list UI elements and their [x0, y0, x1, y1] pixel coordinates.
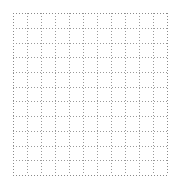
chart-figure	[0, 0, 179, 185]
y-gridline	[13, 131, 167, 132]
y-gridline	[13, 116, 167, 117]
y-gridline	[13, 175, 167, 176]
x-gridline	[27, 13, 28, 175]
y-gridline	[13, 101, 167, 102]
x-gridline	[97, 13, 98, 175]
x-gridline	[139, 13, 140, 175]
x-gridline	[125, 13, 126, 175]
x-gridline	[167, 13, 168, 175]
x-gridline	[83, 13, 84, 175]
x-gridline	[13, 13, 14, 175]
x-gridline	[111, 13, 112, 175]
y-gridline	[13, 160, 167, 161]
y-gridline	[13, 87, 167, 88]
y-gridline	[13, 28, 167, 29]
x-gridline	[55, 13, 56, 175]
x-gridline	[69, 13, 70, 175]
x-gridlines-group	[13, 13, 167, 175]
y-gridline	[13, 43, 167, 44]
x-gridline	[41, 13, 42, 175]
plot-area[interactable]	[13, 13, 167, 175]
x-gridline	[153, 13, 154, 175]
y-gridline	[13, 72, 167, 73]
y-gridline	[13, 13, 167, 14]
y-gridlines-group	[13, 13, 167, 175]
y-gridline	[13, 146, 167, 147]
y-gridline	[13, 57, 167, 58]
